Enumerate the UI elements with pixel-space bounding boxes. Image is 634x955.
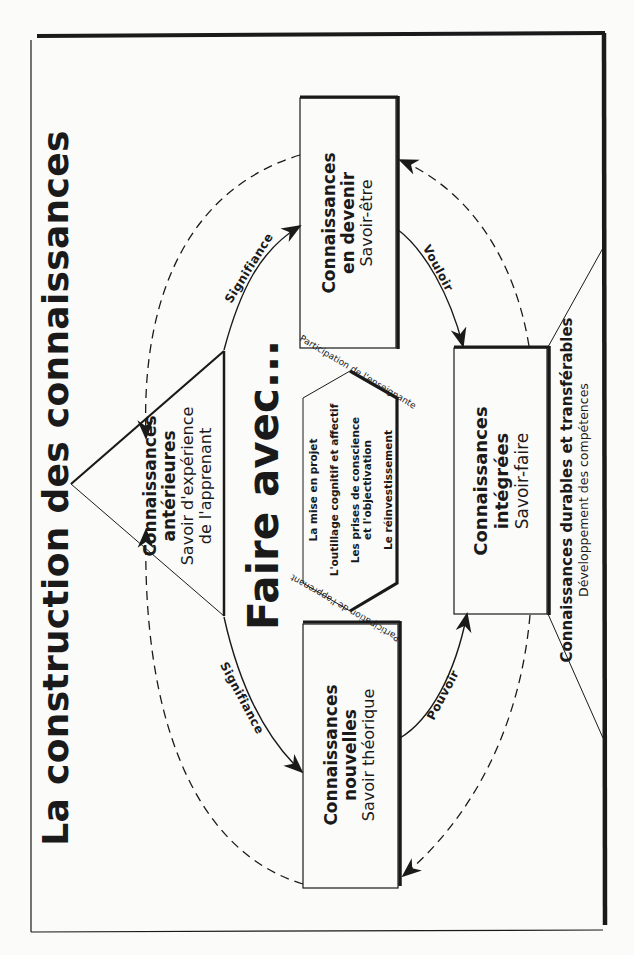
node-nouvelles-subtitle: Savoir théorique xyxy=(360,684,378,825)
node-anterieures-title: Connaissances antérieures xyxy=(141,407,179,566)
faire-avec-label: Faire avec... xyxy=(239,340,288,630)
hex-item-mise-en-projet: La mise en projet xyxy=(307,404,319,577)
page-title: La construction des connaissances xyxy=(35,130,76,845)
node-integrees-subtitle: Savoir-faire xyxy=(512,406,532,556)
node-nouvelles: Connaissances nouvelles Savoir théorique xyxy=(322,684,378,825)
node-nouvelles-title: Connaissances nouvelles xyxy=(322,684,360,825)
node-devenir: Connaissances en devenir Savoir-être xyxy=(320,152,376,293)
diagram-canvas: La construction des connaissances Faire … xyxy=(0,0,634,955)
node-integrees: Connaissances intégrées Savoir-faire xyxy=(470,406,532,556)
node-durables-subtitle: Développement des compétences xyxy=(576,317,591,662)
hex-item-reinvestissement: Le réinvestissement xyxy=(382,404,394,577)
node-devenir-subtitle: Savoir-être xyxy=(358,152,376,293)
node-integrees-title: Connaissances intégrées xyxy=(470,406,512,556)
hexagon-items: La mise en projet L'outillage cognitif e… xyxy=(307,404,394,577)
node-anterieures-subtitle: Savoir d'expérience de l'apprenant xyxy=(179,407,215,566)
hex-item-outillage: L'outillage cognitif et affectif xyxy=(328,404,340,577)
node-devenir-title: Connaissances en devenir xyxy=(320,152,358,293)
hex-item-prises-de-conscience: Les prises de conscience et l'objectivat… xyxy=(349,404,373,577)
node-anterieures: Connaissances antérieures Savoir d'expér… xyxy=(141,407,215,566)
dashed-integrees-to-devenir xyxy=(400,160,529,346)
node-durables: Connaissances durables et transférables … xyxy=(559,317,591,662)
dashed-integrees-to-nouvelles xyxy=(403,615,530,876)
node-durables-title: Connaissances durables et transférables xyxy=(559,317,576,662)
